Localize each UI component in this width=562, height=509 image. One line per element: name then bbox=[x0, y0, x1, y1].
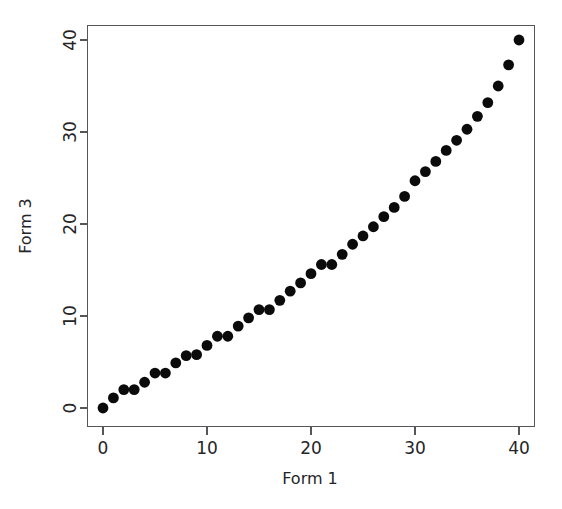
data-point bbox=[150, 368, 161, 379]
data-point bbox=[274, 295, 285, 306]
y-tick-label: 20 bbox=[60, 213, 80, 235]
data-point bbox=[410, 175, 421, 186]
data-point bbox=[399, 191, 410, 202]
plot-frame-rect bbox=[88, 26, 535, 427]
data-point-group bbox=[98, 35, 525, 414]
x-tick-label: 10 bbox=[196, 438, 218, 458]
data-point bbox=[264, 304, 275, 315]
data-point bbox=[295, 277, 306, 288]
data-point bbox=[285, 286, 296, 297]
scatter-plot-figure: 010203040 010203040 Form 1 Form 3 bbox=[0, 0, 562, 509]
data-point bbox=[181, 350, 192, 361]
plot-canvas: 010203040 010203040 Form 1 Form 3 bbox=[0, 0, 562, 509]
data-point bbox=[222, 331, 233, 342]
data-point bbox=[337, 249, 348, 260]
data-point bbox=[118, 384, 129, 395]
data-point bbox=[420, 166, 431, 177]
data-point bbox=[378, 211, 389, 222]
data-point bbox=[98, 403, 109, 414]
data-point bbox=[472, 111, 483, 122]
data-point bbox=[233, 321, 244, 332]
data-point bbox=[306, 268, 317, 279]
data-point bbox=[243, 312, 254, 323]
data-point bbox=[503, 59, 514, 70]
data-point bbox=[451, 135, 462, 146]
data-point bbox=[170, 358, 181, 369]
y-axis-tick-labels: 010203040 bbox=[60, 29, 80, 413]
x-tick-label: 30 bbox=[404, 438, 426, 458]
data-point bbox=[441, 145, 452, 156]
data-point bbox=[482, 97, 493, 108]
x-tick-label: 20 bbox=[300, 438, 322, 458]
data-point bbox=[368, 221, 379, 232]
x-tick-label: 40 bbox=[508, 438, 530, 458]
data-point bbox=[160, 368, 171, 379]
data-point bbox=[129, 384, 140, 395]
data-point bbox=[462, 124, 473, 135]
data-point bbox=[191, 349, 202, 360]
y-axis-ticks bbox=[80, 40, 88, 408]
data-point bbox=[108, 392, 119, 403]
y-tick-label: 40 bbox=[60, 29, 80, 51]
data-point bbox=[430, 156, 441, 167]
data-point bbox=[358, 231, 369, 242]
y-tick-label: 10 bbox=[60, 305, 80, 327]
data-point bbox=[202, 340, 213, 351]
y-tick-label: 30 bbox=[60, 121, 80, 143]
data-point bbox=[347, 239, 358, 250]
data-point bbox=[316, 259, 327, 270]
x-axis-title: Form 1 bbox=[282, 469, 338, 488]
data-point bbox=[493, 81, 504, 92]
data-point bbox=[389, 202, 400, 213]
plot-box bbox=[88, 26, 535, 427]
y-tick-label: 0 bbox=[60, 403, 80, 414]
data-point bbox=[139, 377, 150, 388]
data-point bbox=[254, 304, 265, 315]
x-axis-tick-labels: 010203040 bbox=[98, 438, 530, 458]
data-point bbox=[326, 259, 337, 270]
data-point bbox=[514, 35, 525, 46]
y-axis-title: Form 3 bbox=[16, 198, 35, 254]
x-tick-label: 0 bbox=[98, 438, 109, 458]
x-axis-ticks bbox=[103, 427, 519, 435]
data-point bbox=[212, 331, 223, 342]
